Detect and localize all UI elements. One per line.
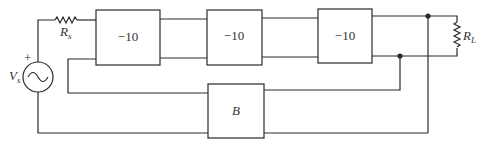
load-resistor-label: RL xyxy=(462,28,476,45)
amplifier-stage-1-gain: −10 xyxy=(118,29,138,44)
source-resistor-label: Rs xyxy=(59,24,72,41)
source-polarity: + xyxy=(24,50,31,65)
voltage-source xyxy=(23,62,53,92)
amplifier-stage-2-gain: −10 xyxy=(224,28,244,43)
junction-node-top xyxy=(425,13,430,18)
load-resistor-symbol xyxy=(454,22,460,47)
source-label: Vs xyxy=(9,68,21,85)
source-resistor-symbol xyxy=(55,17,77,23)
amplifier-stage-3-gain: −10 xyxy=(335,28,355,43)
junction-node-bottom xyxy=(397,53,402,58)
circuit-diagram: Rs + Vs −10 −10 −10 RL B xyxy=(0,0,484,147)
feedback-block-label: B xyxy=(232,103,240,118)
